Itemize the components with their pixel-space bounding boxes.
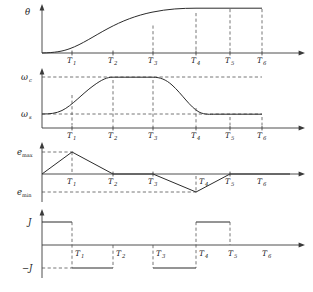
position-xtick-labels: T 1 T 2 T 3 T 4 T 5 T 6 (67, 56, 267, 66)
velocity-xtick-t3-sub: 3 (154, 135, 158, 141)
velocity-xtick-t2-sub: 2 (113, 135, 118, 141)
panel-velocity: ω c ω s T 1 T 2 T 3 T 4 T 5 T 6 (21, 68, 305, 141)
jerk-xtick-t2-sub: 2 (121, 253, 126, 259)
jerk-xtick-t3-sub: 3 (162, 253, 166, 259)
velocity-xtick-t5-sub: 5 (231, 135, 235, 141)
error-xtick-t6-sub: 6 (263, 181, 267, 187)
jerk-xtick-t6-sub: 6 (268, 253, 272, 259)
velocity-ytick-omega-s: ω (21, 109, 28, 119)
position-x-arrow (299, 51, 305, 56)
position-y-arrow (40, 4, 45, 10)
velocity-x-arrow (299, 126, 305, 131)
position-xtick-t2-sub: 2 (113, 60, 118, 66)
error-xtick-t3-sub: 3 (154, 181, 158, 187)
error-curve (42, 152, 290, 192)
velocity-y-arrow (40, 68, 45, 74)
motion-profile-figure: θ T 1 T 2 T 3 T 4 T 5 T 6 (0, 0, 313, 292)
error-y-arrow (40, 142, 45, 148)
jerk-ytick-plus-j: J (26, 217, 32, 227)
error-x-arrow (299, 172, 305, 177)
velocity-xtick-t4-sub: 4 (196, 135, 200, 141)
error-ytick-emin-sub: min (22, 192, 32, 198)
panel-position: θ T 1 T 2 T 3 T 4 T 5 T 6 (25, 4, 305, 66)
position-xtick-t3-sub: 3 (154, 60, 158, 66)
velocity-xtick-t6-sub: 6 (263, 135, 267, 141)
velocity-curve (42, 77, 262, 114)
jerk-xtick-t1-sub: 1 (81, 253, 84, 259)
velocity-ytick-omega-c-sub: c (29, 77, 32, 83)
error-xtick-t2-sub: 2 (113, 181, 118, 187)
jerk-xtick-t4-sub: 4 (204, 253, 208, 259)
jerk-ytick-minus-j: −J (22, 263, 33, 273)
jerk-xtick-t5-sub: 5 (234, 253, 238, 259)
error-xtick-t1-sub: 1 (73, 181, 76, 187)
velocity-ytick-omega-c: ω (21, 72, 28, 82)
error-xtick-t5-sub: 5 (231, 181, 235, 187)
panel-jerk: J −J T 1 T 2 T 3 T 4 T 5 T 6 (22, 209, 305, 278)
jerk-y-arrow (40, 209, 45, 215)
position-xtick-t1-sub: 1 (73, 60, 76, 66)
position-xtick-t6-sub: 6 (263, 60, 267, 66)
error-xtick-labels: T 1 T 2 T 3 T 4 T 5 T 6 (67, 177, 267, 187)
error-ytick-emax-sub: max (22, 152, 33, 158)
position-xtick-t4-sub: 4 (196, 60, 200, 66)
error-xtick-t4-sub: 4 (204, 181, 208, 187)
position-curve (42, 8, 262, 53)
panel-error: e max e min T 1 T 2 T 3 T 4 T 5 T 6 (17, 142, 305, 202)
velocity-xtick-t1-sub: 1 (73, 135, 76, 141)
figure-canvas: θ T 1 T 2 T 3 T 4 T 5 T 6 (0, 0, 313, 292)
position-xtick-t5-sub: 5 (231, 60, 235, 66)
position-y-axis-label: θ (25, 7, 30, 17)
jerk-xtick-labels: T 1 T 2 T 3 T 4 T 5 T 6 (75, 249, 272, 259)
velocity-xtick-labels: T 1 T 2 T 3 T 4 T 5 T 6 (67, 131, 267, 141)
velocity-ytick-omega-s-sub: s (29, 114, 32, 120)
jerk-x-arrow (299, 243, 305, 248)
